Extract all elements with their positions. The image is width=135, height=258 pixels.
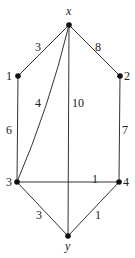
edge-weight-4-y: 1 (95, 208, 101, 222)
weighted-graph-diagram: 3841067131 x1234y (0, 0, 135, 258)
node-2 (117, 73, 123, 79)
edge-weight-3-4: 1 (92, 172, 98, 186)
edge-x-1 (18, 25, 69, 76)
edge-weight-x-2: 8 (95, 40, 101, 54)
edge-weight-x-3: 4 (35, 96, 41, 110)
edge-x-3 (17, 25, 69, 182)
node-1 (15, 73, 21, 79)
node-4 (116, 179, 122, 185)
node-label-4: 4 (123, 175, 129, 189)
edge-x-y (68, 25, 69, 236)
edge-weight-3-y: 3 (36, 208, 42, 222)
node-label-2: 2 (124, 69, 130, 83)
edge-2-4 (119, 76, 120, 182)
edge-weight-1-3: 6 (6, 123, 12, 137)
node-label-3: 3 (6, 175, 12, 189)
edge-weight-x-1: 3 (35, 40, 41, 54)
edge-1-3 (17, 76, 18, 182)
edge-weight-2-4: 7 (122, 123, 128, 137)
node-x (66, 22, 72, 28)
edge-weight-labels: 3841067131 (6, 40, 128, 222)
graph-edges (17, 25, 120, 236)
edge-4-y (68, 182, 119, 236)
edge-3-y (17, 182, 68, 236)
edge-weight-x-y: 10 (72, 96, 84, 110)
node-y (65, 233, 71, 239)
node-3 (14, 179, 20, 185)
node-label-1: 1 (6, 69, 12, 83)
node-label-y: y (64, 239, 71, 253)
node-label-x: x (65, 4, 72, 18)
